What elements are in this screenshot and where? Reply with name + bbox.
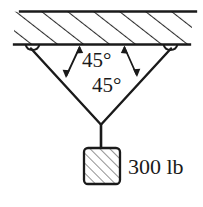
angle-right-arrow	[121, 46, 141, 78]
weight-label: 300 lb	[128, 154, 184, 179]
angle-label-lower: 45°	[92, 73, 121, 97]
ceiling-hatching	[14, 12, 192, 45]
angle-label-upper: 45°	[82, 48, 111, 72]
angle-left-arrow	[63, 46, 84, 79]
block-hatching	[84, 148, 120, 184]
diagram-canvas: 45° 45° 300 lb	[0, 0, 203, 207]
ceiling-support	[14, 12, 196, 45]
statics-figure: 45° 45° 300 lb	[0, 0, 203, 207]
suspended-block	[84, 148, 120, 184]
